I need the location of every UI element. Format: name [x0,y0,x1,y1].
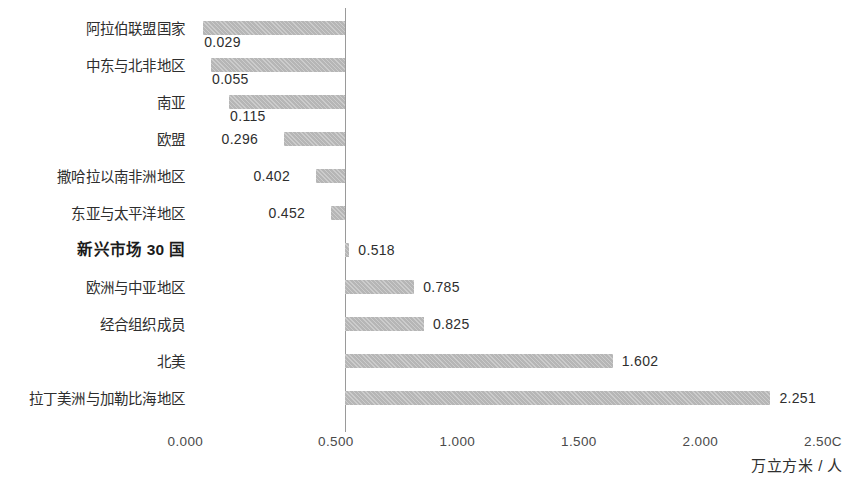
bar [331,206,345,220]
bar-category-label: 阿拉伯联盟国家 [0,18,185,40]
bar-category-label: 撒哈拉以南非洲地区 [0,166,185,188]
table-row: 中东与北非地区0.055 [0,53,851,90]
bar [345,391,770,405]
table-row: 欧盟0.296 [0,127,851,164]
bar-value-label: 0.296 [222,130,259,148]
bar [316,169,345,183]
x-tick-label: 2.000 [683,432,719,452]
x-axis-tick-labels: 0.0000.5001.0001.5002.0002.50C [0,432,851,458]
bar-category-label: 欧盟 [0,129,185,151]
bar-value-label: 0.452 [269,204,306,222]
x-tick-label: 1.500 [561,432,597,452]
bar [345,243,349,257]
bar-category-label: 拉丁美洲与加勒比海地区 [0,388,185,410]
plot-area: 阿拉伯联盟国家0.029中东与北非地区0.055南亚0.115欧盟0.296撒哈… [0,8,851,428]
bar [345,354,613,368]
bar-category-label: 北美 [0,351,185,373]
bar-category-label: 新兴市场 30 国 [0,239,185,261]
bar-category-label: 经合组织成员 [0,314,185,336]
bar [345,280,414,294]
table-row: 撒哈拉以南非洲地区0.402 [0,164,851,201]
table-row: 欧洲与中亚地区0.785 [0,275,851,312]
bar-value-label: 0.115 [230,107,266,125]
bar-value-label: 0.825 [433,315,470,333]
table-row: 新兴市场 30 国0.518 [0,238,851,275]
table-row: 东亚与太平洋地区0.452 [0,201,851,238]
table-row: 阿拉伯联盟国家0.029 [0,16,851,53]
x-tick-label: 1.000 [440,432,476,452]
bar-value-label: 2.251 [779,389,816,407]
bar-value-label: 0.518 [358,241,395,259]
x-tick-label: 0.000 [168,432,204,452]
table-row: 经合组织成员0.825 [0,312,851,349]
table-row: 拉丁美洲与加勒比海地区2.251 [0,386,851,423]
bar-category-label: 南亚 [0,92,185,114]
bar-category-label: 东亚与太平洋地区 [0,203,185,225]
bar-value-label: 0.785 [423,278,460,296]
x-tick-label: 0.500 [318,432,354,452]
bar-value-label: 0.402 [254,167,291,185]
bar-category-label: 中东与北非地区 [0,55,185,77]
bar-value-label: 0.055 [212,70,249,88]
table-row: 南亚0.115 [0,90,851,127]
x-tick-label: 2.50C [804,432,842,452]
bar-chart: 阿拉伯联盟国家0.029中东与北非地区0.055南亚0.115欧盟0.296撒哈… [0,0,851,483]
table-row: 北美1.602 [0,349,851,386]
bar [345,317,424,331]
x-axis-unit-label: 万立方米 / 人 [751,456,843,476]
bar [284,132,345,146]
bar-category-label: 欧洲与中亚地区 [0,277,185,299]
bar-value-label: 1.602 [622,352,659,370]
bar-value-label: 0.029 [204,33,241,51]
